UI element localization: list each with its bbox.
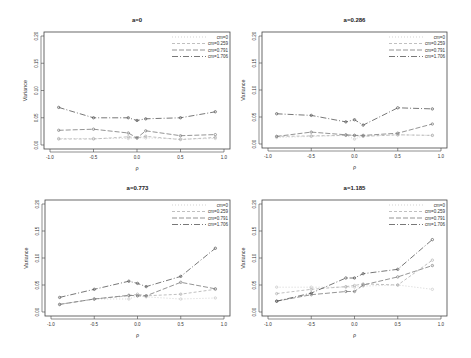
x-tick-label: 0.5 (395, 154, 402, 159)
chart-panel-a1185: a=1.1850.000.050.100.150.20-1.0-0.50.00.… (235, 178, 471, 358)
legend: cm=0cm=0.259cm=0.791cm=1.706 (172, 35, 228, 60)
y-tick-label: 0.10 (34, 86, 39, 95)
y-tick-label: 0.05 (252, 280, 257, 289)
x-tick-label: -0.5 (307, 322, 315, 327)
chart-panel-a0773: a=0.7730.000.050.100.150.20-1.0-0.50.00.… (0, 178, 235, 358)
chart-svg: a=0.2860.000.050.100.150.20-1.0-0.50.00.… (235, 0, 471, 178)
y-tick-label: 0.05 (252, 112, 257, 121)
series-line (277, 240, 433, 302)
chart-panel-a0286: a=0.2860.000.050.100.150.20-1.0-0.50.00.… (235, 0, 471, 178)
chart-svg: a=1.1850.000.050.100.150.20-1.0-0.50.00.… (235, 178, 471, 358)
x-axis-label: ρ (353, 164, 356, 170)
y-tick-label: 0.00 (35, 307, 40, 316)
legend: cm=0cm=0.259cm=0.791cm=1.706 (389, 35, 445, 60)
series-line (277, 124, 433, 136)
x-tick-label: -1.0 (46, 155, 54, 160)
y-tick-label: 0.15 (35, 226, 40, 235)
y-tick-label: 0.15 (252, 58, 257, 67)
y-axis-label: Variance (240, 79, 246, 100)
x-tick-label: 1.0 (221, 322, 228, 327)
x-tick-label: 0.5 (178, 322, 185, 327)
data-point (431, 288, 433, 290)
series-line (59, 107, 216, 120)
data-point (431, 238, 433, 240)
chart-title: a=1.185 (344, 185, 367, 191)
plot-frame (262, 200, 447, 316)
x-tick-label: 0.5 (177, 155, 184, 160)
y-tick-label: 0.15 (34, 58, 39, 67)
plot-frame (44, 32, 230, 149)
legend-label: cm=0 (434, 203, 446, 208)
legend-label: cm=0 (434, 35, 446, 40)
legend-label: cm=1.706 (425, 222, 445, 227)
legend-label: cm=0.259 (208, 41, 228, 46)
y-tick-label: 0.10 (252, 85, 257, 94)
x-tick-label: 0.0 (351, 322, 358, 327)
x-axis-label: ρ (136, 332, 139, 338)
x-tick-label: -1.0 (47, 322, 55, 327)
x-tick-label: -1.0 (264, 322, 272, 327)
x-tick-label: 0.5 (395, 322, 402, 327)
data-point (214, 247, 216, 249)
chart-svg: a=00.000.050.100.150.20-1.0-0.50.00.51.0… (0, 0, 235, 178)
y-tick-label: 0.05 (35, 280, 40, 289)
legend-label: cm=0 (217, 203, 229, 208)
data-point (431, 264, 433, 266)
y-tick-label: 0.20 (34, 31, 39, 40)
plot-frame (262, 32, 447, 148)
y-tick-label: 0.10 (35, 253, 40, 262)
y-tick-label: 0.15 (252, 226, 257, 235)
x-axis-label: ρ (135, 165, 138, 171)
legend: cm=0cm=0.259cm=0.791cm=1.706 (172, 203, 228, 228)
y-axis-label: Variance (240, 247, 246, 268)
y-tick-label: 0.05 (34, 113, 39, 122)
chart-panel-a0: a=00.000.050.100.150.20-1.0-0.50.00.51.0… (0, 0, 235, 178)
x-tick-label: 0.0 (134, 155, 141, 160)
series-line (60, 282, 216, 304)
data-point (214, 133, 216, 135)
legend-label: cm=0.259 (208, 209, 228, 214)
plot-frame (45, 200, 230, 316)
x-tick-label: 1.0 (438, 154, 445, 159)
y-tick-label: 0.20 (35, 199, 40, 208)
legend-label: cm=0.791 (208, 216, 228, 221)
legend: cm=0cm=0.259cm=0.791cm=1.706 (389, 203, 445, 228)
legend-label: cm=0.259 (425, 41, 445, 46)
legend-label: cm=1.706 (208, 222, 228, 227)
chart-title: a=0.286 (344, 17, 367, 23)
legend-label: cm=0 (217, 35, 229, 40)
x-tick-label: 0.0 (134, 322, 141, 327)
y-axis-label: Variance (23, 247, 29, 268)
legend-label: cm=0.791 (208, 48, 228, 53)
legend-label: cm=0.259 (425, 209, 445, 214)
data-point (431, 259, 433, 261)
data-point (397, 276, 399, 278)
data-point (431, 108, 433, 110)
y-tick-label: 0.00 (252, 139, 257, 148)
series-line (277, 108, 433, 125)
legend-label: cm=0.791 (425, 48, 445, 53)
y-tick-label: 0.00 (34, 140, 39, 149)
y-tick-label: 0.00 (252, 307, 257, 316)
x-tick-label: -0.5 (90, 155, 98, 160)
x-axis-label: ρ (353, 332, 356, 338)
series-line (60, 248, 216, 297)
y-tick-label: 0.10 (252, 253, 257, 262)
x-tick-label: -1.0 (264, 154, 272, 159)
x-tick-label: 1.0 (438, 322, 445, 327)
chart-title: a=0 (132, 17, 143, 23)
legend-label: cm=1.706 (208, 54, 228, 59)
data-point (127, 132, 129, 134)
x-tick-label: 1.0 (221, 155, 228, 160)
chart-title: a=0.773 (127, 185, 150, 191)
y-tick-label: 0.20 (252, 31, 257, 40)
y-axis-label: Variance (22, 80, 28, 101)
x-tick-label: 0.0 (351, 154, 358, 159)
x-tick-label: -0.5 (307, 154, 315, 159)
chart-svg: a=0.7730.000.050.100.150.20-1.0-0.50.00.… (0, 178, 235, 358)
legend-label: cm=1.706 (425, 54, 445, 59)
legend-label: cm=0.791 (425, 216, 445, 221)
y-tick-label: 0.20 (252, 199, 257, 208)
x-tick-label: -0.5 (90, 322, 98, 327)
